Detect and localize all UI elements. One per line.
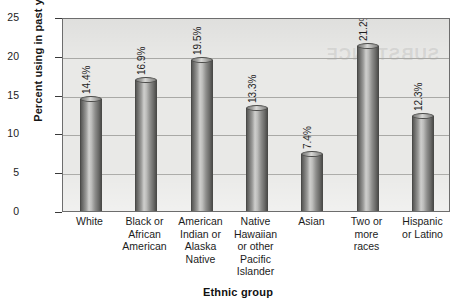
- bar-top-ellipse: [191, 57, 213, 63]
- bar-top-ellipse: [412, 113, 434, 119]
- x-axis-category-line: Indian or: [173, 228, 228, 241]
- bar: 14.4%: [80, 99, 102, 211]
- x-axis-category-line: American: [117, 240, 172, 253]
- y-axis-tick-mark: [55, 57, 62, 58]
- bar: 7.4%: [301, 154, 323, 211]
- bar: 21.2%: [357, 46, 379, 211]
- x-axis-category-line: more: [339, 228, 394, 241]
- bar: 16.9%: [135, 80, 157, 211]
- x-axis-category-line: Alaska: [173, 240, 228, 253]
- x-axis-category-line: or other: [228, 240, 283, 253]
- y-axis-tick-mark: [55, 212, 62, 213]
- y-axis-tick-label: 25: [0, 12, 19, 23]
- y-axis-tick-label: 15: [0, 90, 19, 101]
- x-axis-category-line: Two or: [339, 215, 394, 228]
- x-axis-category-line: or Latino: [395, 228, 450, 241]
- y-axis-tick-mark: [55, 173, 62, 174]
- x-axis-category-line: African: [117, 228, 172, 241]
- y-axis-tick-label: 0: [0, 206, 19, 217]
- y-axis-tick-label: 5: [0, 167, 19, 178]
- bar-chart-figure: Percent using in past year 2520151050 SU…: [0, 0, 476, 307]
- plot-area: SUBSTANCE 14.4%16.9%19.5%13.3%7.4%21.2%1…: [62, 18, 450, 212]
- x-axis-category-line: White: [62, 215, 117, 228]
- bar-value-label: 13.3%: [247, 75, 258, 103]
- bar-value-label: 12.3%: [413, 83, 424, 111]
- bar: 13.3%: [246, 108, 268, 211]
- x-axis-category-line: Hawaiian: [228, 228, 283, 241]
- y-axis-tick-mark: [55, 18, 62, 19]
- x-axis-category-line: Native: [228, 215, 283, 228]
- x-axis-label-group: WhiteBlack orAfricanAmericanAmericanIndi…: [62, 215, 450, 285]
- x-axis-category-line: Black or: [117, 215, 172, 228]
- gridline: [63, 58, 449, 59]
- x-axis-category-label: Black orAfricanAmerican: [117, 215, 172, 253]
- y-axis-tick-label: 10: [0, 128, 19, 139]
- x-axis-category-line: races: [339, 240, 394, 253]
- bar-value-label: 19.5%: [192, 27, 203, 55]
- y-axis-tick-mark: [55, 96, 62, 97]
- bar: 12.3%: [412, 116, 434, 211]
- bar-top-ellipse: [135, 77, 157, 83]
- x-axis-category-line: Islander: [228, 265, 283, 278]
- x-axis-category-line: Hispanic: [395, 215, 450, 228]
- x-axis-category-label: Two ormoreraces: [339, 215, 394, 253]
- bar-value-label: 16.9%: [136, 47, 147, 75]
- bleedthrough-ghost-text: SUBSTANCE: [109, 45, 439, 65]
- bar-value-label: 14.4%: [81, 66, 92, 94]
- bar: 19.5%: [191, 60, 213, 211]
- x-axis-category-line: Pacific: [228, 253, 283, 266]
- x-axis-category-label: Hispanicor Latino: [395, 215, 450, 240]
- x-axis-title: Ethnic group: [0, 286, 476, 298]
- y-axis-tick-label: 20: [0, 51, 19, 62]
- x-axis-category-label: NativeHawaiianor otherPacificIslander: [228, 215, 283, 278]
- bar-value-label: 7.4%: [302, 126, 313, 149]
- x-axis-category-label: White: [62, 215, 117, 228]
- bar-value-label: 21.2%: [358, 18, 369, 41]
- bar-top-ellipse: [80, 96, 102, 102]
- y-axis-title: Percent using in past year: [32, 0, 44, 137]
- x-axis-category-line: Asian: [284, 215, 339, 228]
- bar-top-ellipse: [301, 151, 323, 157]
- bar-top-ellipse: [246, 105, 268, 111]
- bar-top-ellipse: [357, 43, 379, 49]
- x-axis-category-line: Native: [173, 253, 228, 266]
- x-axis-category-line: American: [173, 215, 228, 228]
- x-axis-category-label: AmericanIndian orAlaskaNative: [173, 215, 228, 265]
- y-axis-tick-mark: [55, 134, 62, 135]
- x-axis-category-label: Asian: [284, 215, 339, 228]
